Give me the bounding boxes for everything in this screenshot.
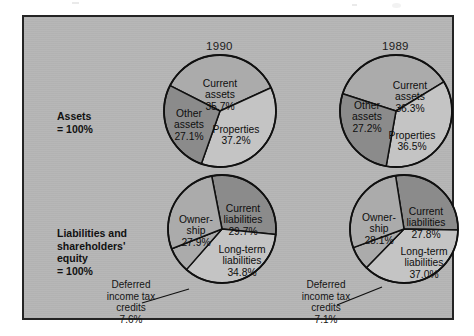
scan-artifact	[72, 2, 79, 4]
callout-deferred-1989: Deferred income tax credits 7.1%	[283, 279, 369, 325]
scan-artifact	[392, 3, 401, 8]
row-label-assets: Assets = 100%	[57, 110, 93, 135]
row-label-liabilities: Liabilities and shareholders' equity = 1…	[57, 227, 127, 277]
scanned-page: 1990 1989 Assets = 100% Liabilities and …	[0, 0, 474, 336]
callout-deferred-1990: Deferred income tax credits 7.6%	[88, 279, 174, 325]
pie-slice-label-current-assets: Currentassets36.3%	[393, 80, 427, 114]
pie-slice-label-other-assets: Otherassets27.2%	[352, 100, 382, 134]
pie-chart-liabilities-1990: Currentliabilities29.7%Long-termliabilit…	[154, 161, 290, 297]
figure-frame: 1990 1989 Assets = 100% Liabilities and …	[22, 15, 454, 320]
pie-slice-label-other-assets: Otherassets27.1%	[174, 108, 204, 142]
pie-slice-label-current-liabilities: Currentliabilities29.7%	[224, 203, 263, 237]
pie-chart-assets-1990: Currentassets35.7%Properties37.2%Otheras…	[150, 41, 290, 181]
pie-slice-label-current-assets: Currentassets35.7%	[203, 78, 237, 112]
pie-chart-assets-1989: Currentassets36.3%Properties36.5%Otheras…	[326, 41, 466, 181]
scan-artifact	[352, 4, 357, 6]
pie-slice-label-current-liabilities: Currentliabilities27.8%	[407, 206, 446, 240]
pie-chart-liabilities-1989: Currentliabilities27.8%Long-termliabilit…	[336, 161, 472, 297]
